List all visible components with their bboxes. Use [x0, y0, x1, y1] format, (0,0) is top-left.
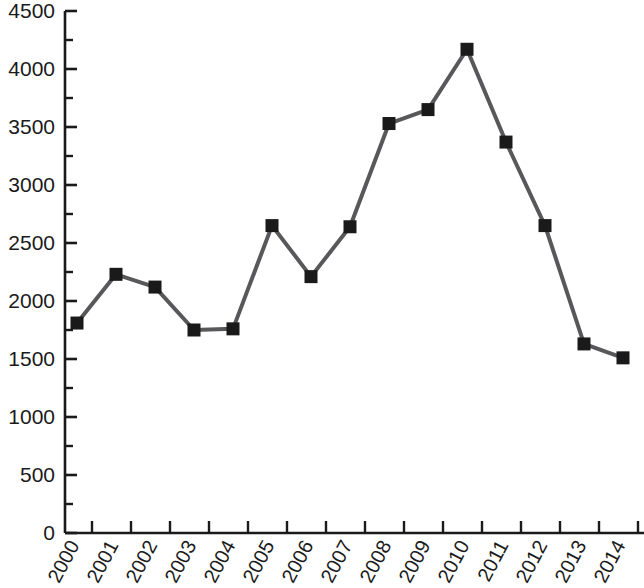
data-point-marker: [305, 270, 318, 283]
chart-canvas: 050010001500200025003000350040004500 200…: [0, 0, 644, 588]
data-series: [71, 43, 630, 365]
x-tick-label: 2004: [199, 537, 239, 587]
x-tick-label: 2013: [550, 537, 590, 587]
data-point-marker: [227, 322, 240, 335]
y-tick-label: 2000: [8, 289, 55, 312]
x-tick-label: 2008: [355, 537, 395, 587]
y-tick-label: 1500: [8, 347, 55, 370]
data-point-marker: [539, 219, 552, 232]
series-line: [77, 49, 623, 358]
x-tick-label: 2011: [473, 537, 513, 585]
data-point-marker: [149, 281, 162, 294]
y-tick-label: 3000: [8, 173, 55, 196]
data-point-marker: [188, 324, 201, 337]
data-point-marker: [422, 103, 435, 116]
data-point-marker: [344, 220, 357, 233]
y-tick-label: 4500: [8, 0, 55, 22]
y-tick-label: 2500: [8, 231, 55, 254]
y-tick-label: 1000: [8, 405, 55, 428]
y-tick-label: 0: [43, 521, 55, 544]
y-tick-label: 500: [20, 463, 55, 486]
data-point-marker: [110, 268, 123, 281]
x-tick-label: 2003: [160, 537, 200, 587]
data-point-marker: [71, 317, 84, 330]
data-point-marker: [578, 337, 591, 350]
y-tick-label: 3500: [8, 115, 55, 138]
x-tick-label: 2009: [394, 537, 434, 587]
x-tick-label: 2006: [277, 537, 317, 587]
data-point-marker: [500, 136, 513, 149]
x-axis: 2000200120022003200420052006200720082009…: [43, 521, 644, 586]
x-tick-label: 2007: [316, 537, 356, 587]
line-chart: 050010001500200025003000350040004500 200…: [0, 0, 644, 588]
x-tick-label: 2002: [121, 537, 161, 587]
data-point-marker: [461, 43, 474, 56]
data-point-marker: [617, 351, 630, 364]
x-tick-label: 2005: [238, 537, 278, 587]
x-tick-label: 2012: [511, 537, 551, 587]
x-tick-label: 2001: [82, 537, 122, 587]
x-tick-label: 2010: [433, 537, 473, 587]
y-axis: 050010001500200025003000350040004500: [8, 0, 77, 544]
data-point-marker: [266, 219, 279, 232]
x-tick-label: 2014: [589, 537, 629, 587]
y-tick-label: 4000: [8, 57, 55, 80]
data-point-marker: [383, 117, 396, 130]
